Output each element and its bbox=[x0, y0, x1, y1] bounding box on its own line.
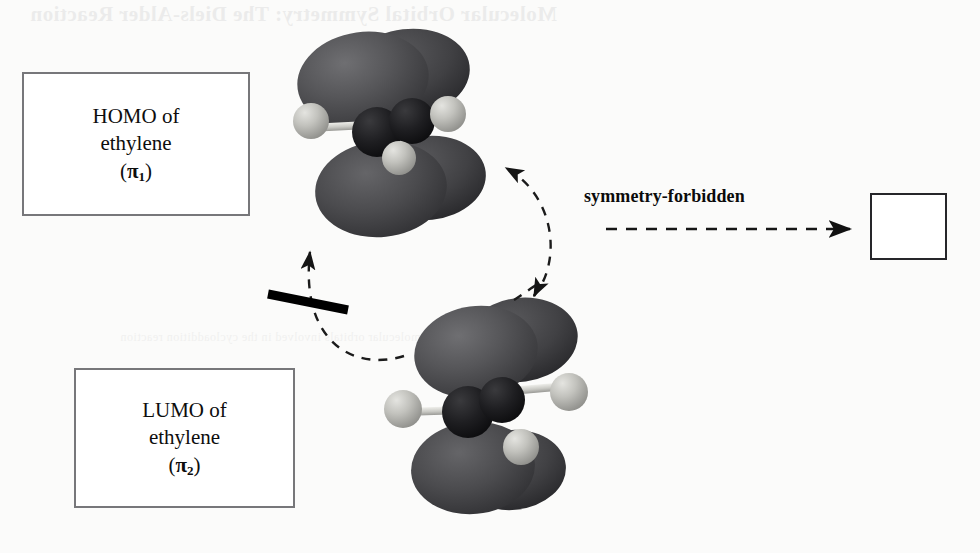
figure-canvas: Molecular Orbital Symmetry: The Diels-Al… bbox=[0, 0, 980, 553]
lumo-homo-interaction-arc-tail bbox=[514, 285, 538, 300]
homo-open-paren: ( bbox=[120, 159, 127, 183]
homo-label-line2: ethylene bbox=[100, 130, 171, 157]
homo-label-line1: HOMO of bbox=[93, 103, 180, 130]
lumo-pi-subscript: 2 bbox=[187, 463, 194, 478]
lumo-orbital-symbol: (π2) bbox=[168, 452, 200, 479]
cyclobutane-product-square bbox=[870, 193, 947, 260]
lumo-homo-interaction-arc bbox=[506, 168, 551, 296]
lumo-label-line2: ethylene bbox=[149, 424, 220, 451]
homo-pi-subscript: 1 bbox=[139, 169, 146, 184]
lumo-pi-glyph: π bbox=[175, 453, 187, 477]
homo-close-paren: ) bbox=[145, 159, 152, 183]
homo-orbital-symbol: (π1) bbox=[120, 158, 152, 185]
homo-label-box[interactable]: HOMO of ethylene (π1) bbox=[22, 72, 250, 216]
symmetry-forbidden-label: symmetry-forbidden bbox=[584, 186, 745, 207]
forbidden-slash-bar bbox=[268, 294, 348, 310]
homo-pi-glyph: π bbox=[127, 159, 139, 183]
lumo-label-line1: LUMO of bbox=[142, 397, 227, 424]
lumo-label-box[interactable]: LUMO of ethylene (π2) bbox=[74, 368, 295, 508]
lumo-close-paren: ) bbox=[194, 453, 201, 477]
